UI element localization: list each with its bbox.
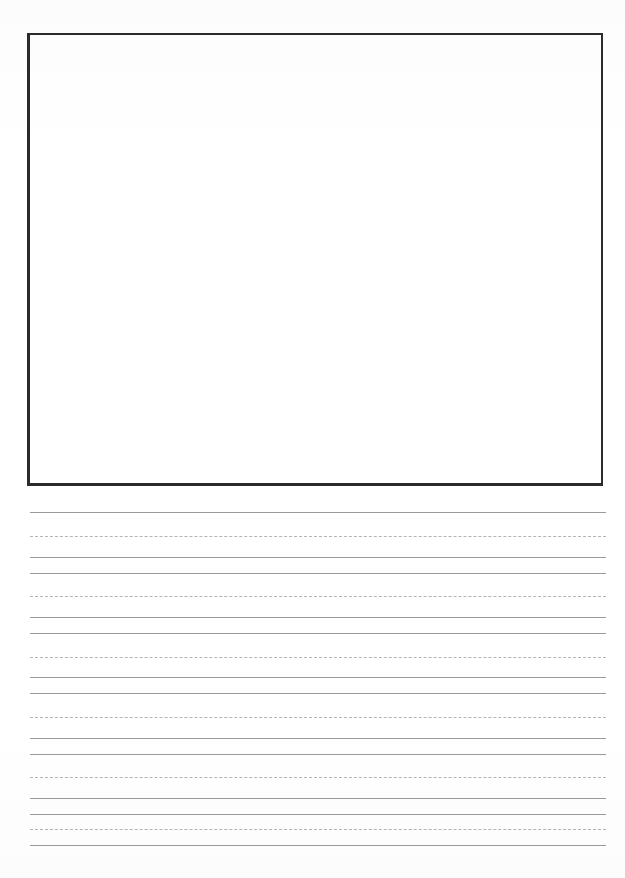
writing-guide-solid-line [30,693,606,694]
writing-guide-solid-line [30,677,606,678]
writing-guide-solid-line [30,573,606,574]
writing-guide-dashed-line [30,717,606,718]
drawing-box-border-right [601,33,603,486]
worksheet-page [0,0,625,878]
drawing-box[interactable] [27,33,603,486]
writing-guide-solid-line [30,633,606,634]
writing-guide-solid-line [30,557,606,558]
drawing-box-border-top [27,33,603,35]
writing-guide-solid-line [30,738,606,739]
writing-guide-solid-line [30,814,606,815]
writing-guide-solid-line [30,754,606,755]
drawing-box-border-bottom [27,483,603,486]
writing-guide-dashed-line [30,657,606,658]
drawing-box-interior[interactable] [30,35,601,483]
writing-guide-solid-line [30,798,606,799]
writing-guide-solid-line [30,512,606,513]
writing-guide-solid-line [30,845,606,846]
writing-guide-dashed-line [30,596,606,597]
drawing-box-border-left [27,33,30,486]
writing-guide-dashed-line [30,829,606,830]
ruled-writing-area[interactable] [30,512,606,847]
writing-guide-dashed-line [30,536,606,537]
writing-guide-solid-line [30,617,606,618]
writing-guide-dashed-line [30,777,606,778]
